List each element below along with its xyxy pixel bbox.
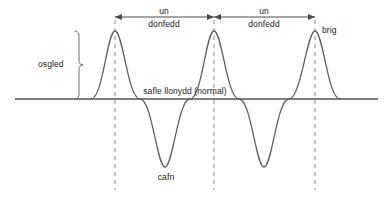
- wavelength-label-1-line1: un: [159, 6, 169, 16]
- rest-position-label: safle llonydd (normal): [143, 86, 226, 96]
- amplitude-label: osgled: [38, 59, 64, 69]
- crest-label: brig: [322, 25, 337, 35]
- wavelength-label-2-line1: un: [259, 6, 269, 16]
- wavelength-label-2-line2: donfedd: [248, 19, 279, 29]
- trough-label: cafn: [158, 172, 174, 182]
- wavelength-label-1-line2: donfedd: [148, 19, 179, 29]
- amplitude-brace: [75, 31, 83, 99]
- wave-diagram: osgled un donfedd un donfedd brig safle …: [0, 0, 386, 200]
